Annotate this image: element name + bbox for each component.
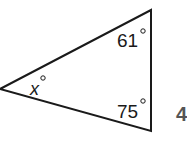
- problem-number: 4: [176, 103, 187, 125]
- triangle-diagram: 61 x 75 4: [0, 0, 187, 141]
- angle-top-right-label: 61: [117, 30, 138, 51]
- degree-icon: [141, 99, 145, 103]
- degree-icon: [141, 29, 145, 33]
- angle-left-label: x: [29, 79, 40, 99]
- degree-icon: [41, 76, 45, 80]
- angle-bottom-right-label: 75: [117, 101, 138, 122]
